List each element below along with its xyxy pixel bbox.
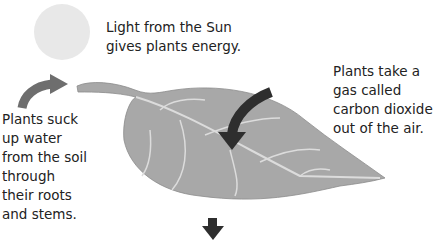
water-label-line: Plants suck bbox=[2, 110, 87, 129]
water-arrow-icon bbox=[22, 74, 68, 108]
co2-label-line: carbon dioxide bbox=[333, 100, 433, 119]
co2-label-line: Plants take a bbox=[333, 62, 433, 81]
water-label-line: through bbox=[2, 167, 87, 186]
sun-label-line: gives plants energy. bbox=[106, 37, 241, 56]
sun-label: Light from the Sun gives plants energy. bbox=[106, 18, 241, 56]
water-label-line: their roots bbox=[2, 186, 87, 205]
water-label-line: up water bbox=[2, 129, 87, 148]
sun-label-line: Light from the Sun bbox=[106, 18, 241, 37]
co2-label-line: out of the air. bbox=[333, 119, 433, 138]
water-label: Plants suck up water from the soil throu… bbox=[2, 110, 87, 224]
co2-label-line: gas called bbox=[333, 81, 433, 100]
oxygen-arrow-icon bbox=[202, 218, 224, 240]
water-label-line: from the soil bbox=[2, 148, 87, 167]
sun-icon bbox=[34, 4, 90, 60]
water-label-line: and stems. bbox=[2, 205, 87, 224]
co2-label: Plants take a gas called carbon dioxide … bbox=[333, 62, 433, 138]
